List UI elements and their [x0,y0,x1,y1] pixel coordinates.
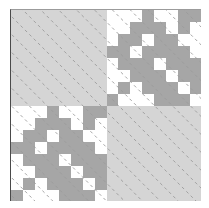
matrix-cell [178,58,191,71]
matrix-cell [95,70,108,83]
matrix-cell [166,70,179,83]
matrix-cell [95,154,108,167]
matrix-cell [118,142,131,155]
matrix-cell [130,22,143,35]
matrix-cell [107,22,120,35]
matrix-cell [142,154,155,167]
matrix-cell [59,34,72,47]
matrix-cell [59,142,72,155]
matrix-cell [35,10,48,23]
matrix-cell [59,166,72,179]
matrix-cell [83,34,96,47]
matrix-cell [154,94,167,107]
matrix-cell [11,46,24,59]
matrix-cell [83,190,96,201]
matrix-cell [178,82,191,95]
matrix-cell [118,10,131,23]
matrix-cell [190,190,201,201]
matrix-cell [23,166,36,179]
matrix-cell [190,58,201,71]
matrix-cell [178,70,191,83]
matrix-cell [95,106,108,119]
matrix-cell [178,154,191,167]
matrix-cell [47,10,60,23]
matrix-cell [71,46,84,59]
matrix-cell [95,130,108,143]
matrix-cell [95,10,108,23]
matrix-cell [142,10,155,23]
matrix-cell [178,22,191,35]
matrix-cell [95,22,108,35]
matrix-cell [83,130,96,143]
matrix-cell [130,34,143,47]
matrix-cell [190,106,201,119]
matrix-cell [11,118,24,131]
matrix-cell [107,154,120,167]
matrix-cell [23,130,36,143]
matrix-cell [166,106,179,119]
matrix-cell [11,178,24,191]
matrix-cell [95,118,108,131]
matrix-cell [35,130,48,143]
matrix-cell [23,178,36,191]
matrix-cell [107,82,120,95]
matrix-cell [35,178,48,191]
matrix-cell [190,10,201,23]
matrix-cell [166,10,179,23]
matrix-cell [11,190,24,201]
matrix-cell [166,22,179,35]
matrix-cell [83,94,96,107]
matrix-cell [95,58,108,71]
matrix-cell [11,10,24,23]
matrix-cell [59,178,72,191]
matrix-cell [11,94,24,107]
matrix-cell [118,82,131,95]
matrix-cell [118,166,131,179]
matrix-cell [11,82,24,95]
matrix-cell [178,190,191,201]
matrix-cell [47,58,60,71]
matrix-cell [118,154,131,167]
matrix-cell [23,106,36,119]
matrix-cell [118,118,131,131]
matrix-cell [130,166,143,179]
matrix-cell [11,106,24,119]
matrix-cell [130,190,143,201]
matrix-cell [47,106,60,119]
matrix-cell [47,46,60,59]
matrix-cell [118,178,131,191]
matrix-cell [107,166,120,179]
matrix-cell [71,34,84,47]
matrix-cell [130,178,143,191]
matrix-cell [154,130,167,143]
matrix-cell [154,82,167,95]
matrix-cell [47,70,60,83]
matrix-cell [166,154,179,167]
matrix-cell [166,58,179,71]
matrix-cell [83,82,96,95]
matrix-cell [23,10,36,23]
matrix-cell [190,154,201,167]
matrix-cell [154,178,167,191]
matrix-cell [35,142,48,155]
matrix-cell [166,142,179,155]
matrix-cell [83,106,96,119]
matrix-cell [11,166,24,179]
matrix-cell [11,34,24,47]
matrix-cell [47,166,60,179]
matrix-cell [83,58,96,71]
heatmap-figure [0,0,209,208]
matrix-cell [154,142,167,155]
matrix-cell [59,94,72,107]
matrix-cell [71,82,84,95]
matrix-cell [190,178,201,191]
matrix-cell [166,130,179,143]
matrix-cell [154,154,167,167]
matrix-cell [107,118,120,131]
matrix-cell [178,46,191,59]
matrix-cell [130,46,143,59]
matrix-cell [71,142,84,155]
matrix-cell [59,10,72,23]
matrix-cell [118,34,131,47]
matrix-cell [71,178,84,191]
